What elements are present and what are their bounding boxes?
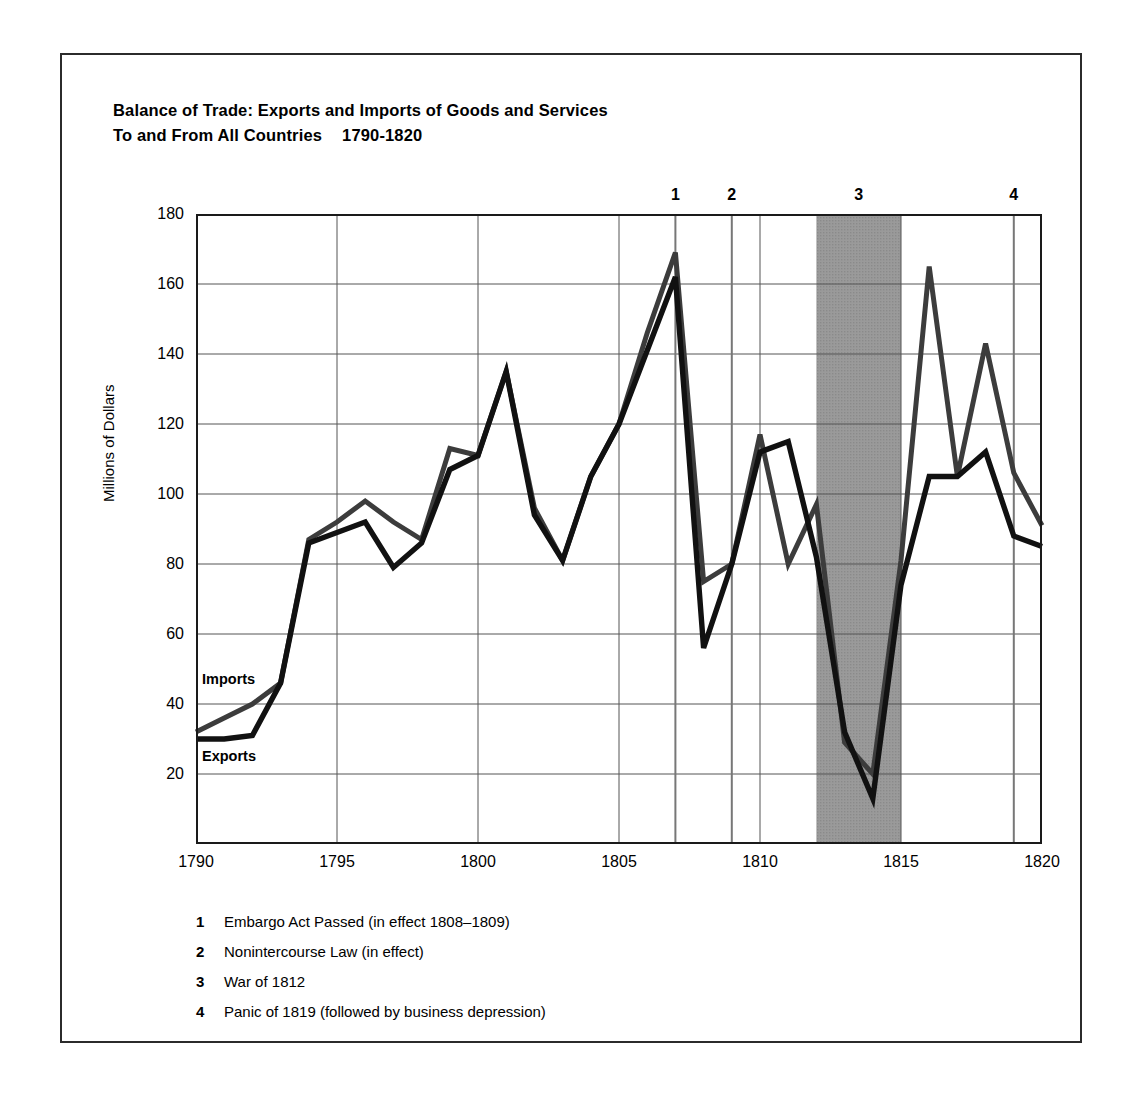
page-title: Balance of Trade: Exports and Imports of… bbox=[113, 98, 608, 148]
event-legend-row: 3War of 1812 bbox=[196, 967, 546, 997]
title-line-2-text: To and From All Countries bbox=[113, 126, 322, 144]
title-year-range: 1790-1820 bbox=[342, 126, 422, 144]
event-legend: 1Embargo Act Passed (in effect 1808–1809… bbox=[196, 907, 546, 1027]
x-tick-label: 1815 bbox=[883, 853, 919, 871]
x-tick-label: 1790 bbox=[178, 853, 214, 871]
event-legend-row: 1Embargo Act Passed (in effect 1808–1809… bbox=[196, 907, 546, 937]
x-tick-label: 1810 bbox=[742, 853, 778, 871]
y-tick-label: 140 bbox=[138, 345, 184, 363]
y-tick-label: 100 bbox=[138, 485, 184, 503]
event-number-4: 4 bbox=[1009, 186, 1018, 204]
event-legend-label: Nonintercourse Law (in effect) bbox=[224, 937, 424, 967]
x-tick-label: 1795 bbox=[319, 853, 355, 871]
event-number-1: 1 bbox=[671, 186, 680, 204]
y-tick-label: 40 bbox=[138, 695, 184, 713]
event-number-3: 3 bbox=[854, 186, 863, 204]
plot-border bbox=[196, 214, 1042, 844]
figure-card: Balance of Trade: Exports and Imports of… bbox=[60, 53, 1082, 1043]
y-axis-title: Millions of Dollars bbox=[100, 242, 117, 502]
x-tick-label: 1805 bbox=[601, 853, 637, 871]
y-tick-label: 20 bbox=[138, 765, 184, 783]
event-legend-row: 4Panic of 1819 (followed by business dep… bbox=[196, 997, 546, 1027]
event-legend-number: 3 bbox=[196, 967, 224, 997]
event-legend-label: Embargo Act Passed (in effect 1808–1809) bbox=[224, 907, 510, 937]
event-legend-number: 4 bbox=[196, 997, 224, 1027]
chart-plot-area: Millions of Dollars 20406080100120140160… bbox=[196, 214, 1042, 844]
event-legend-row: 2Nonintercourse Law (in effect) bbox=[196, 937, 546, 967]
x-tick-label: 1800 bbox=[460, 853, 496, 871]
y-tick-label: 160 bbox=[138, 275, 184, 293]
event-legend-label: War of 1812 bbox=[224, 967, 305, 997]
event-legend-number: 2 bbox=[196, 937, 224, 967]
event-legend-number: 1 bbox=[196, 907, 224, 937]
y-tick-label: 80 bbox=[138, 555, 184, 573]
y-tick-label: 60 bbox=[138, 625, 184, 643]
exports-series-label: Exports bbox=[202, 748, 256, 764]
imports-series-label: Imports bbox=[202, 671, 255, 687]
event-legend-label: Panic of 1819 (followed by business depr… bbox=[224, 997, 546, 1027]
event-number-2: 2 bbox=[727, 186, 736, 204]
x-tick-label: 1820 bbox=[1024, 853, 1060, 871]
y-tick-label: 120 bbox=[138, 415, 184, 433]
title-line-1: Balance of Trade: Exports and Imports of… bbox=[113, 98, 608, 123]
y-tick-label: 180 bbox=[138, 205, 184, 223]
title-line-2: To and From All Countries1790-1820 bbox=[113, 123, 608, 148]
